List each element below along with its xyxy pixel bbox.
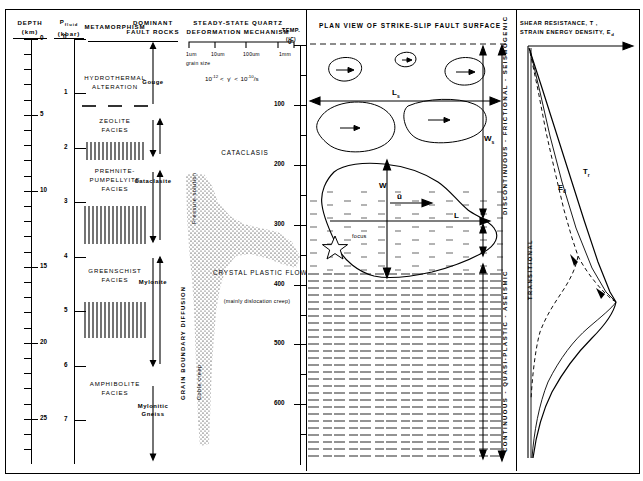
depth-tick-minor [24, 54, 31, 55]
fault-rock-gouge: Gouge [131, 79, 175, 85]
mechanism-header-line1: STEADY-STATE QUARTZ [193, 19, 283, 26]
temperature-tick-label: 0 [288, 38, 292, 45]
temperature-header-line1: TEMP. [282, 27, 300, 33]
label-mean-slip: ū [397, 192, 402, 201]
pressure-tick [74, 257, 86, 258]
fault-rocks-header-line1: DOMINANT [133, 19, 173, 26]
strength-header-subscript: d [611, 32, 614, 37]
divider-planview-strength [516, 10, 517, 471]
mechanism-regime-crystal-plastic-flow: CRYSTAL PLASTIC FLOW [213, 267, 297, 278]
depth-tick-minor [24, 434, 31, 435]
fault-rock-mylonite: Mylonite [128, 279, 178, 285]
pressure-tick-label: 5 [64, 306, 68, 313]
curve-strain-energy-density [530, 52, 578, 400]
depth-tick-minor [24, 236, 31, 237]
tau-subscript: r [588, 173, 590, 178]
pressure-tick [74, 148, 86, 149]
mechanism-regime-cataclasis: CATACLASIS [205, 148, 285, 157]
depth-tick-label: 0 [40, 34, 44, 41]
depth-tick-minor [24, 297, 31, 298]
metamorphism-hatch-band [84, 206, 146, 244]
depth-tick-minor [24, 328, 31, 329]
divider-depth-planview [306, 10, 307, 471]
temperature-tick-minor [300, 195, 306, 196]
depth-tick-major [24, 267, 38, 268]
figure-canvas: DEPTH (km) 0 5 10 15 20 25 Pfluid (kbar)… [0, 0, 643, 481]
grain-size-label-1um: 1um [186, 51, 197, 57]
fault-rock-mylonitic-gneiss: MyloniticGneiss [126, 402, 180, 418]
plan-view-header: PLAN VIEW OF STRIKE-SLIP FAULT SURFACE [310, 22, 510, 31]
depth-tick-minor [24, 130, 31, 131]
depth-tick-minor [24, 282, 31, 283]
temperature-tick [294, 404, 306, 405]
temperature-tick [294, 45, 306, 46]
pressure-tick-label: 7 [64, 415, 68, 422]
label-total-length: Ls [392, 88, 400, 99]
grain-size-label-10um: 10um [211, 51, 225, 57]
strength-depth-chart [522, 40, 636, 465]
temperature-tick-label: 300 [274, 220, 285, 227]
temperature-tick [294, 344, 306, 345]
pressure-header-subscript: fluid [65, 22, 78, 27]
pressure-header-unit: (kbar) [58, 30, 80, 37]
depth-tick-minor [24, 84, 31, 85]
depth-tick-minor [24, 404, 31, 405]
pressure-tick [74, 366, 86, 367]
depth-tick-minor [24, 160, 31, 161]
strength-header: SHEAR RESISTANCE, T , STRAIN ENERGY DENS… [520, 19, 636, 39]
label-focus: focus [352, 233, 367, 239]
strain-rate-base1: 10 [205, 75, 212, 82]
temperature-tick-minor [300, 135, 306, 136]
depth-tick-minor [24, 69, 31, 70]
pressure-tick-label: 3 [64, 197, 68, 204]
depth-tick-minor [24, 252, 31, 253]
metamorphism-hatch-band [86, 142, 144, 160]
pressure-tick [74, 93, 86, 94]
depth-tick-major [24, 343, 38, 344]
regime-label-aseismic: CONTINUOUS - QUASI-PLASTIC - ASEISMIC [502, 270, 508, 452]
strength-header-line1: SHEAR RESISTANCE, T , [520, 20, 598, 26]
temperature-tick-label: 400 [274, 280, 285, 287]
depth-tick-minor [24, 388, 31, 389]
mechanism-pressure-solution-label: Pressure solution [191, 172, 197, 224]
energy-subscript: d [563, 189, 566, 194]
depth-tick-major [24, 419, 38, 420]
mechanism-grain-boundary-diffusion-label: GRAIN BOUNDARY DIFFUSION [180, 286, 186, 400]
depth-tick-major [24, 115, 38, 116]
temperature-tick-minor [300, 315, 306, 316]
depth-header-line2: (km) [22, 28, 38, 35]
temperature-tick-minor [300, 75, 306, 76]
strain-rate-inequality: < γ̇ < [220, 75, 239, 82]
curve-label-energy: Ed [558, 183, 566, 194]
depth-tick-label: 5 [40, 110, 44, 117]
pressure-tick-label: 1 [64, 88, 68, 95]
depth-tick-major [24, 191, 38, 192]
grain-size-caption: grain size [186, 60, 210, 66]
depth-tick-minor [24, 449, 31, 450]
label-patch-length: L [454, 211, 459, 220]
depth-header: DEPTH (km) [8, 19, 52, 36]
mechanism-header-line2: DEFORMATION MECHANISM [186, 28, 289, 35]
fault-rocks-header: DOMINANT FAULT ROCKS [122, 19, 184, 36]
depth-tick-label: 15 [40, 262, 47, 269]
temperature-tick-minor [300, 434, 306, 435]
metamorphism-hatch-band [84, 302, 146, 338]
strain-rate-expression: 10-12 < γ̇ < 10-10/s [205, 74, 259, 82]
mechanism-regime-note: (mainly dislocation creep) [216, 297, 298, 306]
crystal-plastic-flow-label: CRYSTAL PLASTIC FLOW [213, 269, 307, 276]
fault-rock-cataclasite: Cataclasite [126, 178, 180, 184]
temperature-tick-label: 200 [274, 160, 285, 167]
pressure-tick-label: 0 [63, 33, 67, 40]
temperature-tick-label: 600 [274, 399, 285, 406]
depth-tick-minor [24, 358, 31, 359]
temperature-tick-label: 100 [274, 100, 285, 107]
temperature-tick [294, 285, 306, 286]
grain-size-label-100um: 100um [243, 51, 260, 57]
temperature-tick-minor [300, 255, 306, 256]
pressure-tick [74, 202, 86, 203]
grain-size-label-1mm: 1mm [279, 51, 291, 57]
pressure-tick [74, 420, 86, 421]
depth-tick-label: 20 [40, 338, 47, 345]
temperature-tick [294, 225, 306, 226]
depth-tick-minor [24, 100, 31, 101]
